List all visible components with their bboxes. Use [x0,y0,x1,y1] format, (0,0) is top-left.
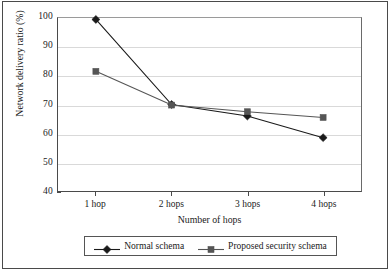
x-tick-mark-4 [324,192,325,196]
data-point-2-4 [320,115,326,121]
series-plot [58,18,361,191]
y-tick-label-50: 50 [31,158,53,168]
legend-label-1: Normal schema [124,241,184,252]
y-tick-label-40: 40 [31,187,53,197]
chart-legend: Normal schemaProposed security schema [84,236,337,256]
x-tick-mark-3 [248,192,249,196]
y-axis-tick-labels: 405060708090100 [29,17,53,192]
y-tick-label-80: 80 [31,70,53,80]
figure-container: Network delivery ratio (%) 4050607080901… [0,0,391,275]
x-tick-mark-1 [95,192,96,196]
y-tick-label-90: 90 [31,41,53,51]
legend-label-2: Proposed security schema [228,241,327,252]
series-line-1 [96,19,323,137]
series-1 [92,15,327,141]
legend-diamond-icon [94,241,120,252]
series-2 [93,68,326,120]
data-point-1-4 [319,134,327,142]
x-tick-mark-2 [171,192,172,196]
y-tick-label-70: 70 [31,100,53,110]
legend-marker-1 [103,245,111,253]
x-axis-title: Number of hops [57,214,362,225]
x-tick-label-3: 3 hops [213,199,283,210]
data-point-2-1 [93,68,99,74]
y-tick-label-60: 60 [31,129,53,139]
y-tick-mark-40 [57,192,61,193]
legend-marker-2 [208,246,214,252]
y-axis-title: Network delivery ratio (%) [14,0,25,139]
legend-entry-2: Proposed security schema [198,241,327,252]
legend-square-icon [198,241,224,252]
x-tick-label-2: 2 hops [136,199,206,210]
data-point-2-3 [244,109,250,115]
y-tick-label-100: 100 [31,12,53,22]
data-point-2-2 [169,102,175,108]
x-tick-label-4: 4 hops [289,199,359,210]
plot-area [57,17,362,192]
legend-entry-1: Normal schema [94,241,184,252]
x-tick-label-1: 1 hop [60,199,130,210]
